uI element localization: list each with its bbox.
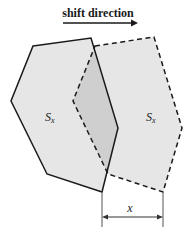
- arrow-right-icon: [157, 215, 163, 220]
- shift-direction-arrow-icon: [63, 20, 138, 27]
- shift-diagram: shift direction Sx Sx x: [0, 0, 191, 237]
- shift-distance-label: x: [126, 201, 133, 215]
- shift-direction-label: shift direction: [62, 6, 134, 20]
- arrow-left-icon: [102, 215, 108, 220]
